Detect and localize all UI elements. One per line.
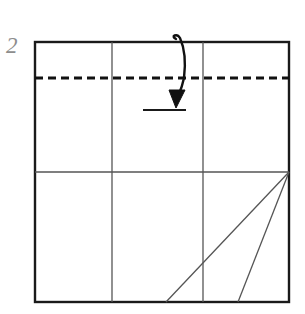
origami-diagram: 2 [0, 0, 305, 314]
figure-background [0, 0, 305, 314]
origami-figure: 2 [0, 0, 305, 314]
step-number-label: 2 [6, 33, 18, 58]
